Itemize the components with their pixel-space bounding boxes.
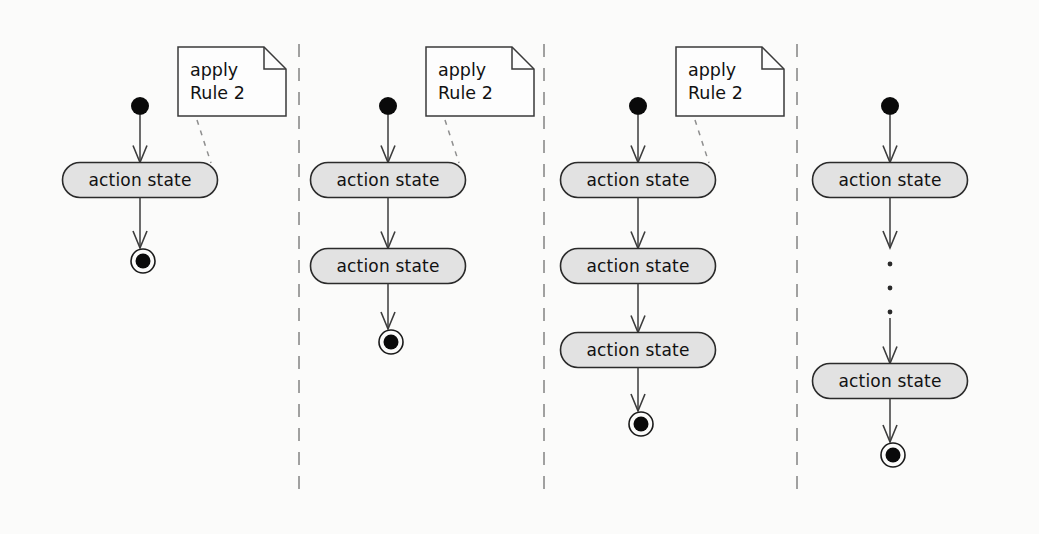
transition-initial-to-state-1 xyxy=(381,115,395,163)
action-state-label: action state xyxy=(838,371,941,391)
action-state-label: action state xyxy=(586,170,689,190)
diagram-panel-4: action stateaction state xyxy=(813,97,968,467)
note-text-line-1: apply xyxy=(688,60,736,80)
transition-initial-to-state-1 xyxy=(631,115,645,163)
note-text-line-2: Rule 2 xyxy=(438,83,493,103)
final-state-fill xyxy=(136,254,151,269)
note-text-line-1: apply xyxy=(190,60,238,80)
transition-initial-to-state-1 xyxy=(133,115,147,163)
final-state-fill xyxy=(384,335,399,350)
note-apply-rule-2: applyRule 2 xyxy=(178,47,286,116)
final-state-node xyxy=(379,330,403,354)
initial-state-node xyxy=(131,97,149,115)
note-text-line-2: Rule 2 xyxy=(688,83,743,103)
note-apply-rule-2: applyRule 2 xyxy=(676,47,784,116)
note-apply-rule-2: applyRule 2 xyxy=(426,47,534,116)
transition-initial-to-state-1 xyxy=(883,115,897,163)
uml-activity-diagram: applyRule 2action stateapplyRule 2action… xyxy=(0,0,1039,534)
note-body xyxy=(676,47,784,116)
action-state-label: action state xyxy=(838,170,941,190)
ellipsis-dot-3 xyxy=(888,310,893,315)
action-state-label: action state xyxy=(586,340,689,360)
note-anchor-line xyxy=(445,120,459,163)
note-body xyxy=(178,47,286,116)
initial-state-node xyxy=(629,97,647,115)
final-state-fill xyxy=(634,417,649,432)
action-state[interactable]: action state xyxy=(63,163,218,198)
initial-state-node xyxy=(881,97,899,115)
diagram-panel-3: applyRule 2action stateaction stateactio… xyxy=(561,47,785,436)
action-state[interactable]: action state xyxy=(561,333,716,368)
action-state-label: action state xyxy=(586,256,689,276)
transition-state-to-final xyxy=(133,198,147,249)
activity-diagram-canvas: applyRule 2action stateapplyRule 2action… xyxy=(0,0,1039,534)
transition-state-1-to-state-2 xyxy=(631,198,645,249)
final-state-node xyxy=(629,412,653,436)
action-state-label: action state xyxy=(88,170,191,190)
final-state-node xyxy=(131,249,155,273)
transition-state-to-final xyxy=(381,284,395,330)
diagram-panel-1: applyRule 2action state xyxy=(63,47,287,273)
note-text-line-1: apply xyxy=(438,60,486,80)
action-state[interactable]: action state xyxy=(311,249,466,284)
transition-state-to-final xyxy=(631,368,645,412)
action-state[interactable]: action state xyxy=(311,163,466,198)
transition-state-to-final xyxy=(883,399,897,443)
action-state-label: action state xyxy=(336,256,439,276)
final-state-fill xyxy=(886,448,901,463)
transition-from-ellipsis xyxy=(883,318,897,364)
ellipsis-dot-2 xyxy=(888,286,893,291)
diagram-panel-2: applyRule 2action stateaction state xyxy=(311,47,535,354)
note-anchor-line xyxy=(197,120,211,163)
note-text-line-2: Rule 2 xyxy=(190,83,245,103)
transition-state-2-to-state-3 xyxy=(631,284,645,333)
action-state[interactable]: action state xyxy=(813,163,968,198)
initial-state-node xyxy=(379,97,397,115)
final-state-node xyxy=(881,443,905,467)
note-anchor-line xyxy=(695,120,709,163)
note-body xyxy=(426,47,534,116)
action-state[interactable]: action state xyxy=(813,364,968,399)
action-state-label: action state xyxy=(336,170,439,190)
ellipsis-dot-1 xyxy=(888,262,893,267)
action-state[interactable]: action state xyxy=(561,249,716,284)
transition-state-1-to-state-2 xyxy=(381,198,395,249)
transition-to-ellipsis xyxy=(883,198,897,249)
action-state[interactable]: action state xyxy=(561,163,716,198)
